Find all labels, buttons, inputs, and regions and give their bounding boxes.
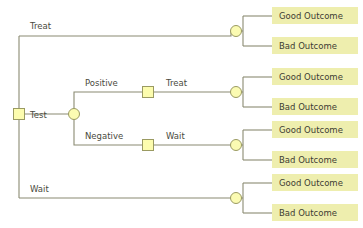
edge-label-root-treat: Treat: [29, 21, 52, 31]
edge-label-root-wait: Wait: [30, 184, 49, 194]
outcome-label-bad-2: Bad Outcome: [279, 102, 337, 112]
edge-label-group: Treat Test Wait Positive Negative Treat …: [29, 21, 188, 194]
positive-decision-node[interactable]: [143, 87, 154, 98]
edge-label-test-positive: Positive: [85, 78, 118, 88]
positive-treat-chance-node[interactable]: [231, 87, 242, 98]
edge-label-test-negative: Negative: [85, 131, 123, 141]
outcome-label-good-1: Good Outcome: [279, 11, 343, 21]
outcome-label-bad-3: Bad Outcome: [279, 155, 337, 165]
outcome-label-good-4: Good Outcome: [279, 178, 343, 188]
wait-outcome-chance-node[interactable]: [231, 193, 242, 204]
edge-root-treat: [19, 31, 231, 36]
decision-tree-diagram: Good Outcome Bad Outcome Good Outcome Ba…: [0, 0, 363, 228]
test-chance-node[interactable]: [69, 109, 80, 120]
treat-outcome-chance-node[interactable]: [231, 26, 242, 37]
outcome-label-bad-1: Bad Outcome: [279, 41, 337, 51]
edge-label-root-test: Test: [29, 110, 47, 120]
edge-label-negative-wait: Wait: [166, 131, 185, 141]
outcome-box-group: [272, 7, 358, 221]
outcome-label-good-2: Good Outcome: [279, 72, 343, 82]
edge-label-positive-treat: Treat: [165, 78, 188, 88]
edge-test-positive: [74, 92, 143, 109]
outcome-label-good-3: Good Outcome: [279, 125, 343, 135]
negative-wait-chance-node[interactable]: [231, 140, 242, 151]
outcome-label-bad-4: Bad Outcome: [279, 208, 337, 218]
negative-decision-node[interactable]: [143, 140, 154, 151]
edge-group: [19, 16, 272, 213]
decision-tree-canvas: Good Outcome Bad Outcome Good Outcome Ba…: [0, 0, 363, 228]
root-decision-node[interactable]: [14, 109, 25, 120]
